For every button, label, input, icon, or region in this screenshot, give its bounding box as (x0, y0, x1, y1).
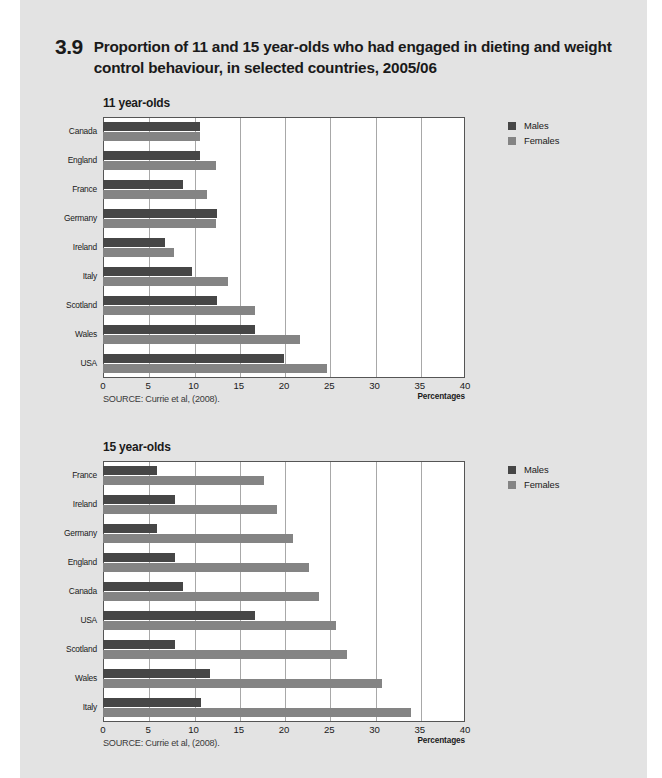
bar-females (103, 679, 382, 688)
legend-item-females: Females (508, 133, 559, 148)
bar-males (103, 553, 175, 562)
axis-tick-label: 20 (279, 380, 290, 391)
axis-tick-label: 10 (188, 724, 199, 735)
category-label: USA (80, 615, 97, 625)
axis-tick-label: 15 (233, 724, 244, 735)
bar-males (103, 180, 183, 189)
category-label: England (68, 155, 97, 165)
bar-females (103, 505, 277, 514)
bar-males (103, 296, 217, 305)
legend-label: Males (524, 120, 549, 131)
axis-tick-label: 10 (188, 380, 199, 391)
legend-swatch-icon (508, 137, 516, 145)
legend-label: Females (524, 479, 559, 490)
legend: MalesFemales (508, 462, 559, 492)
bar-group: Germany (103, 519, 465, 548)
bar-males (103, 238, 165, 247)
bar-group: England (103, 146, 465, 175)
legend-item-males: Males (508, 118, 559, 133)
axis-tick-label: 5 (146, 380, 151, 391)
bar-group: Scotland (103, 635, 465, 664)
legend-label: Males (524, 464, 549, 475)
bar-females (103, 364, 327, 373)
category-label: Scotland (66, 300, 97, 310)
category-label: Wales (75, 673, 97, 683)
axis-tick-label: 25 (324, 380, 335, 391)
bars-layer: CanadaEnglandFranceGermanyIrelandItalySc… (103, 117, 465, 378)
axis-tick-label: 0 (100, 380, 105, 391)
bar-females (103, 563, 309, 572)
category-label: Ireland (73, 499, 97, 509)
axis-tick-label: 15 (233, 380, 244, 391)
bar-group: Italy (103, 262, 465, 291)
bar-group: France (103, 461, 465, 490)
bar-males (103, 698, 201, 707)
bar-group: Canada (103, 577, 465, 606)
axis-tick-label: 0 (100, 724, 105, 735)
category-label: Scotland (66, 644, 97, 654)
bar-males (103, 640, 175, 649)
category-label: England (68, 557, 97, 567)
axis-tick-label: 35 (414, 380, 425, 391)
bar-group: Wales (103, 320, 465, 349)
bar-group: USA (103, 606, 465, 635)
category-label: Canada (69, 586, 97, 596)
chart-subtitle: 11 year-olds (103, 96, 170, 110)
legend-swatch-icon (508, 122, 516, 130)
bar-males (103, 495, 175, 504)
bar-females (103, 335, 300, 344)
source-note: SOURCE: Currie et al, (2008). (103, 394, 220, 404)
figure-number: 3.9 (55, 36, 83, 58)
page-title: Proportion of 11 and 15 year-olds who ha… (94, 36, 625, 78)
axis-tick-label: 35 (414, 724, 425, 735)
bar-females (103, 161, 216, 170)
bar-females (103, 621, 336, 630)
bar-females (103, 708, 411, 717)
bar-females (103, 248, 174, 257)
bar-males (103, 524, 157, 533)
bar-group: Germany (103, 204, 465, 233)
bar-males (103, 611, 255, 620)
source-note: SOURCE: Currie et al, (2008). (103, 738, 220, 748)
bar-group: Scotland (103, 291, 465, 320)
bar-females (103, 476, 264, 485)
legend-item-females: Females (508, 477, 559, 492)
category-label: Italy (83, 702, 97, 712)
legend: MalesFemales (508, 118, 559, 148)
legend-item-males: Males (508, 462, 559, 477)
legend-label: Females (524, 135, 559, 146)
axis-tick-label: 25 (324, 724, 335, 735)
category-label: Canada (69, 126, 97, 136)
bar-group: USA (103, 349, 465, 378)
bar-females (103, 277, 228, 286)
bar-males (103, 354, 284, 363)
category-label: Ireland (73, 242, 97, 252)
bar-group: Wales (103, 664, 465, 693)
category-label: Germany (64, 213, 97, 223)
bar-group: Canada (103, 117, 465, 146)
bars-layer: FranceIrelandGermanyEnglandCanadaUSAScot… (103, 461, 465, 722)
bar-females (103, 534, 293, 543)
bar-females (103, 190, 207, 199)
legend-swatch-icon (508, 481, 516, 489)
page-background: 3.9 Proportion of 11 and 15 year-olds wh… (20, 0, 647, 778)
bar-males (103, 151, 200, 160)
axis-tick-label: 5 (146, 724, 151, 735)
bar-males (103, 466, 157, 475)
bar-group: Italy (103, 693, 465, 722)
bar-females (103, 219, 216, 228)
axis-tick-label: 30 (369, 380, 380, 391)
bar-males (103, 582, 183, 591)
axis-tick-label: 30 (369, 724, 380, 735)
bar-females (103, 132, 200, 141)
axis-tick-label: 20 (279, 724, 290, 735)
category-label: Wales (75, 329, 97, 339)
bar-males (103, 669, 210, 678)
bar-males (103, 267, 192, 276)
bar-group: Ireland (103, 490, 465, 519)
category-label: Germany (64, 528, 97, 538)
plot-area: CanadaEnglandFranceGermanyIrelandItalySc… (103, 117, 465, 378)
category-label: France (72, 184, 97, 194)
plot-area: FranceIrelandGermanyEnglandCanadaUSAScot… (103, 461, 465, 722)
bar-females (103, 306, 255, 315)
